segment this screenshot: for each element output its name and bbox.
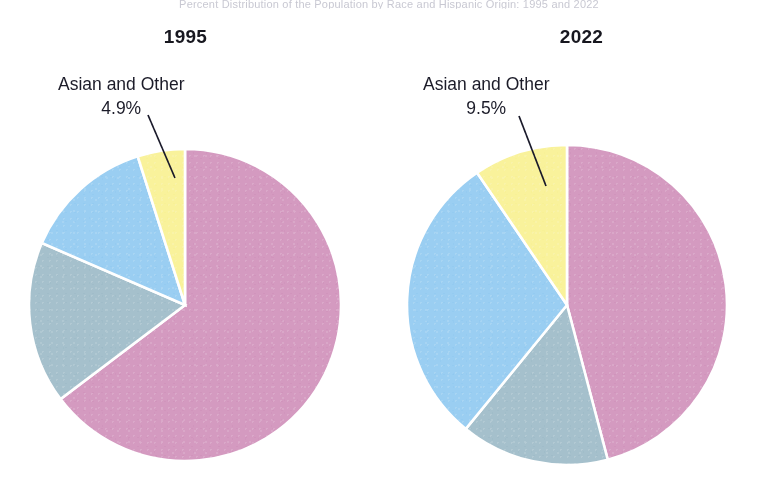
slice-category-value: 29.6% [450, 305, 517, 329]
slice-category-name: Black [57, 290, 100, 310]
slice-category-value: 45.9% [649, 307, 699, 331]
slice-category-name: Hispanic [450, 283, 517, 303]
slice-label-hispanic-2022: Hispanic 29.6% [450, 281, 517, 329]
slice-label-white-1995: White 64.7% [218, 283, 268, 331]
slice-category-name: Black [568, 393, 611, 413]
chart-panel-2022: 2022 Asian and Other 9.5% Hispanic 29.6%… [389, 0, 778, 502]
slice-category-name: White [652, 285, 697, 305]
slice-category-value: 13.6% [70, 225, 137, 249]
callout-label-asian-other-1995: Asian and Other 4.9% [58, 72, 184, 120]
slice-category-value: 64.7% [218, 307, 268, 331]
slice-category-value: 15.0% [564, 415, 614, 439]
slice-label-black-2022: Black 15.0% [564, 391, 614, 439]
chart-title-2022: 2022 [387, 26, 776, 48]
slice-category-value: 16.8% [53, 312, 103, 336]
callout-label-asian-other-2022: Asian and Other 9.5% [423, 72, 549, 120]
slice-category-name: White [221, 285, 266, 305]
slice-label-hispanic-1995: Hispanic 13.6% [70, 201, 137, 249]
chart-panel-1995: 1995 Asian and Other 4.9% Hispanic 13.6%… [0, 0, 389, 502]
slice-category-name: Hispanic [70, 203, 137, 223]
callout-category-name: Asian and Other [58, 74, 184, 94]
callout-category-value: 9.5% [423, 96, 549, 120]
callout-category-value: 4.9% [58, 96, 184, 120]
slice-label-white-2022: White 45.9% [649, 283, 699, 331]
slice-label-black-1995: Black 16.8% [53, 288, 103, 336]
chart-title-1995: 1995 [0, 26, 380, 48]
callout-category-name: Asian and Other [423, 74, 549, 94]
